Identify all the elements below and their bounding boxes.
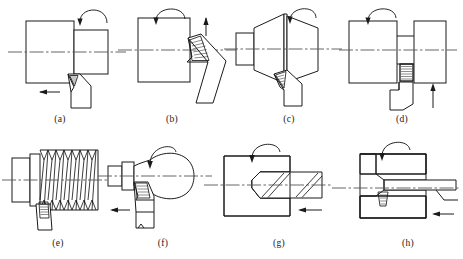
caption-g: (g) bbox=[259, 238, 299, 248]
feed-arrow-d bbox=[430, 83, 435, 108]
panel-a bbox=[8, 4, 128, 112]
rotation-arrow-a bbox=[77, 10, 107, 26]
panel-h bbox=[340, 140, 463, 236]
panel-e bbox=[6, 140, 116, 236]
panel-c bbox=[232, 4, 350, 112]
caption-h: (h) bbox=[388, 238, 428, 248]
feed-arrow-a bbox=[39, 89, 60, 94]
shank-break-h bbox=[436, 190, 458, 200]
facing-tool-b bbox=[187, 34, 226, 103]
panel-f bbox=[102, 140, 217, 236]
feed-arrow-b bbox=[203, 17, 208, 36]
rotation-arrow-g bbox=[249, 144, 280, 163]
threading-tool-e bbox=[36, 202, 52, 230]
panel-d bbox=[345, 4, 463, 112]
form-tool-f bbox=[134, 182, 154, 228]
caption-e: (e) bbox=[38, 238, 78, 248]
workpiece-split-cylinder bbox=[349, 21, 446, 83]
feed-arrow-f bbox=[110, 207, 130, 212]
panel-g bbox=[212, 140, 334, 236]
caption-d: (d) bbox=[382, 114, 422, 124]
feed-arrow-h bbox=[432, 211, 454, 216]
cutting-insert-d bbox=[400, 64, 413, 81]
caption-f: (f) bbox=[143, 238, 183, 248]
figure-sheet: (a) bbox=[0, 0, 463, 259]
boring-bar-h bbox=[378, 180, 456, 206]
turning-tool-a bbox=[68, 74, 91, 108]
caption-c: (c) bbox=[269, 114, 309, 124]
rotation-arrow-h bbox=[379, 142, 410, 161]
caption-a: (a) bbox=[40, 114, 80, 124]
caption-b: (b) bbox=[152, 114, 192, 124]
panel-b bbox=[130, 4, 245, 112]
feed-arrow-g bbox=[298, 207, 322, 212]
boring-insert-h bbox=[378, 192, 388, 206]
